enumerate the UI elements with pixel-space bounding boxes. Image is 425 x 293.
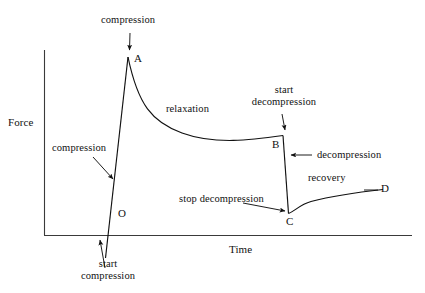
annotation-stop-decompression: stop decompression: [179, 193, 264, 205]
arrow-compression-left: [93, 157, 113, 179]
annotation-start-compression: start compression: [72, 258, 144, 282]
point-label-c: C: [286, 215, 293, 227]
x-axis-label: Time: [229, 243, 252, 255]
annotation-start-decompression: start decompression: [246, 84, 322, 108]
annotation-compression-top: compression: [101, 14, 155, 26]
annotation-compression-left: compression: [52, 142, 106, 154]
force-time-diagram: Force Time A B C D O compression compres…: [0, 0, 425, 293]
point-label-a: A: [134, 52, 142, 64]
annotation-relaxation: relaxation: [166, 103, 209, 115]
arrow-compression-top: [130, 33, 131, 50]
curve-segment-decompression: [283, 136, 289, 214]
arrow-start-decompression: [282, 114, 285, 130]
curve-segment-recovery: [289, 190, 384, 214]
annotation-recovery: recovery: [308, 172, 346, 184]
point-label-b: B: [272, 138, 279, 150]
y-axis-label: Force: [8, 116, 34, 128]
curve-segment-compression: [106, 57, 129, 258]
point-label-o: O: [118, 207, 126, 219]
annotation-decompression: decompression: [317, 149, 381, 161]
point-label-d: D: [381, 182, 389, 194]
